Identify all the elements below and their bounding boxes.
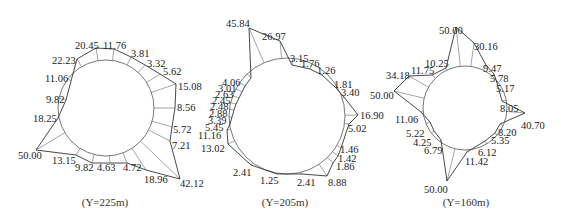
stress-value-label: 1.25 xyxy=(260,175,278,186)
diagram-caption: (Y=205m) xyxy=(262,196,309,209)
stress-value-label: 11.06 xyxy=(45,73,68,84)
stress-value-label: 50.00 xyxy=(18,150,42,161)
stress-radial-line xyxy=(240,82,245,86)
stress-value-label: 11.06 xyxy=(395,114,418,125)
stress-value-label: 3.40 xyxy=(341,87,359,98)
diagram-y225: 20.4511.763.813.325.6215.088.565.727.214… xyxy=(18,40,204,209)
stress-value-label: 8.05 xyxy=(500,103,518,114)
stress-value-label: 9.82 xyxy=(46,94,64,105)
stress-radial-line xyxy=(431,131,434,133)
stress-value-label: 1.86 xyxy=(336,161,354,172)
stress-value-label: 45.84 xyxy=(226,18,250,29)
diagram-y160: 50.0030.169.475.785.178.0540.708.205.356… xyxy=(370,25,545,209)
stress-radial-line xyxy=(147,74,160,82)
stress-radial-line xyxy=(328,157,333,163)
diagram-caption: (Y=160m) xyxy=(443,196,490,209)
stress-radial-line xyxy=(409,76,429,87)
stress-radial-line xyxy=(447,149,455,181)
stress-value-label: 5.72 xyxy=(173,124,191,135)
stress-radial-line xyxy=(76,148,80,155)
stress-value-label: 18.96 xyxy=(144,174,168,185)
diagram-caption: (Y=225m) xyxy=(82,196,129,209)
stress-value-label: 20.45 xyxy=(75,40,99,51)
stress-value-label: 15.08 xyxy=(178,81,202,92)
stress-value-label: 34.18 xyxy=(386,70,410,81)
stress-value-label: 4.06 xyxy=(222,77,240,88)
stress-value-label: 8.56 xyxy=(177,102,195,113)
stress-radial-line xyxy=(152,121,172,127)
stress-radial-line xyxy=(228,141,235,144)
stress-value-label: 4.63 xyxy=(97,162,115,173)
stress-value-label: 5.22 xyxy=(406,128,424,139)
stress-value-label: 4.72 xyxy=(123,162,141,173)
stress-value-label: 50.00 xyxy=(424,184,448,195)
stress-value-label: 5.02 xyxy=(348,123,366,134)
stress-value-label: 8.88 xyxy=(328,177,346,188)
stress-radial-line xyxy=(231,103,236,104)
stress-value-label: 11.42 xyxy=(465,156,488,167)
stress-value-label: 13.15 xyxy=(52,155,76,166)
stress-value-label: 50.00 xyxy=(439,25,463,36)
stress-radial-line xyxy=(229,109,234,110)
stress-value-label: 40.70 xyxy=(521,120,545,131)
stress-radial-line xyxy=(68,79,71,81)
stress-value-label: 2.41 xyxy=(233,167,251,178)
stress-value-label: 26.97 xyxy=(262,31,286,42)
stress-radial-line xyxy=(77,59,82,67)
stress-value-label: 7.21 xyxy=(172,140,190,151)
stress-value-label: 5.35 xyxy=(491,135,509,146)
stress-value-label: 1.26 xyxy=(317,65,335,76)
stress-value-label: 2.41 xyxy=(297,177,315,188)
stress-value-label: 9.82 xyxy=(75,162,93,173)
stress-value-label: 42.12 xyxy=(180,178,204,189)
stress-value-label: 50.00 xyxy=(370,90,394,101)
stress-value-label: 13.02 xyxy=(201,143,225,154)
stress-value-label: 22.23 xyxy=(52,55,76,66)
stress-radial-line xyxy=(485,141,487,144)
stress-value-label: 11.76 xyxy=(103,40,126,51)
stress-radial-line xyxy=(149,130,170,141)
stress-value-label: 5.17 xyxy=(496,83,514,94)
stress-value-label: 5.62 xyxy=(163,66,181,77)
stress-value-label: 16.90 xyxy=(360,110,384,121)
stress-value-label: 30.16 xyxy=(474,41,498,52)
diagram-y205: 45.8426.973.151.761.261.813.4016.905.021… xyxy=(198,18,384,209)
stress-diagrams: 20.4511.763.813.325.6215.088.565.727.214… xyxy=(0,0,561,223)
stress-radial-line xyxy=(151,84,176,92)
stress-radial-line xyxy=(36,133,65,150)
stress-radial-line xyxy=(233,96,239,98)
stress-value-label: 18.25 xyxy=(33,113,57,124)
stress-radial-line xyxy=(138,65,145,72)
stress-radial-line xyxy=(319,164,327,176)
stress-value-label: 10.25 xyxy=(425,58,449,69)
stress-radial-line xyxy=(236,89,242,92)
stress-radial-line xyxy=(426,122,430,124)
